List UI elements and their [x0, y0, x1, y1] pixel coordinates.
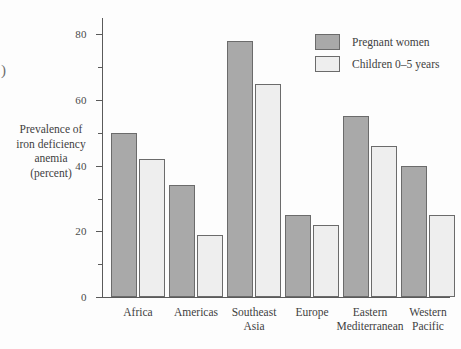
bar-pregnant-women[interactable]	[227, 41, 253, 297]
bar-pregnant-women[interactable]	[343, 116, 369, 297]
bar-children-0-5[interactable]	[139, 159, 165, 297]
y-tick-minor	[98, 264, 103, 265]
y-tick-label: 60	[75, 94, 87, 106]
y-tick-label: 80	[75, 28, 87, 40]
y-tick-label: 0	[81, 291, 87, 303]
y-tick-major: 0	[96, 297, 103, 298]
bar-children-0-5[interactable]	[429, 215, 455, 297]
y-tick-major: 60	[96, 100, 103, 101]
bar-group: Americas	[169, 18, 223, 297]
bar-group: Africa	[111, 18, 165, 297]
bar-children-0-5[interactable]	[313, 225, 339, 297]
legend-swatch	[315, 56, 340, 72]
legend-label: Children 0–5 years	[352, 58, 440, 70]
legend-swatch	[315, 34, 340, 50]
legend-label: Pregnant women	[352, 36, 430, 48]
y-tick-minor	[98, 133, 103, 134]
legend-item[interactable]: Children 0–5 years	[315, 53, 440, 75]
bar-pregnant-women[interactable]	[169, 185, 195, 297]
y-tick-major: 20	[96, 231, 103, 232]
x-axis-category-label: Western Pacific	[380, 305, 461, 333]
bar-pregnant-women[interactable]	[285, 215, 311, 297]
bar-chart-figure: ) Prevalence of iron deficiency anemia (…	[0, 0, 461, 349]
y-axis-line	[102, 18, 103, 297]
legend: Pregnant womenChildren 0–5 years	[315, 31, 440, 75]
y-tick-label: 40	[75, 160, 87, 172]
edge-artifact-glyph: )	[1, 62, 6, 79]
y-tick-label: 20	[75, 225, 87, 237]
bar-children-0-5[interactable]	[197, 235, 223, 297]
y-tick-minor	[98, 67, 103, 68]
bar-children-0-5[interactable]	[371, 146, 397, 297]
legend-item[interactable]: Pregnant women	[315, 31, 440, 53]
y-tick-major: 80	[96, 34, 103, 35]
bar-pregnant-women[interactable]	[401, 166, 427, 297]
bar-group: Southeast Asia	[227, 18, 281, 297]
y-tick-minor	[98, 199, 103, 200]
x-axis-line	[102, 297, 450, 298]
bar-children-0-5[interactable]	[255, 84, 281, 297]
bar-pregnant-women[interactable]	[111, 133, 137, 297]
y-tick-major: 40	[96, 166, 103, 167]
